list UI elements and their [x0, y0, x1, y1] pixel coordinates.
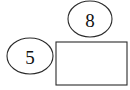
diagram-svg: 8 5 [0, 0, 130, 90]
ellipse-left-label: 5 [25, 47, 35, 68]
rectangle-main[interactable] [56, 42, 127, 85]
diagram-canvas: 8 5 [0, 0, 130, 90]
ellipse-top-label: 8 [85, 10, 95, 31]
